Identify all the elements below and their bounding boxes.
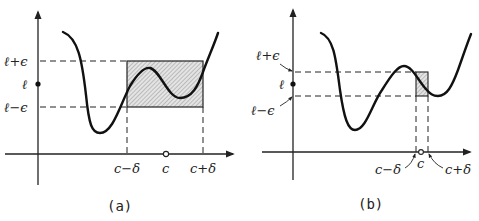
caption-a: (a) xyxy=(107,198,132,214)
label-c: c xyxy=(417,156,425,171)
label-c-minus-delta: c−δ xyxy=(114,161,140,176)
label-c-plus-delta: c+δ xyxy=(190,161,216,176)
pointer-arrow-upper xyxy=(280,64,292,71)
c-point-hollow xyxy=(419,150,424,155)
dashed-guides xyxy=(295,72,428,152)
c-point-hollow xyxy=(163,151,168,156)
limit-point xyxy=(290,81,295,86)
label-l-minus-eps: ℓ−ϵ xyxy=(251,103,275,118)
label-c-minus-delta: c−δ xyxy=(375,162,401,177)
pointer-arrow-c-plus-delta xyxy=(429,154,443,168)
label-c-plus-delta: c+δ xyxy=(445,162,471,177)
pointer-arrow-lower xyxy=(280,97,292,106)
epsilon-delta-figure: ℓ+ϵ ℓ ℓ−ϵ c−δ c c+δ (a) xyxy=(0,0,479,221)
label-c: c xyxy=(162,161,170,176)
caption-b: (b) xyxy=(358,196,383,212)
panel-a: ℓ+ϵ ℓ ℓ−ϵ c−δ c c+δ (a) xyxy=(4,12,233,214)
label-l-plus-eps: ℓ+ϵ xyxy=(256,48,280,63)
label-l-plus-eps: ℓ+ϵ xyxy=(4,54,28,69)
limit-point xyxy=(35,81,40,86)
function-curve xyxy=(321,33,471,130)
pointer-arrow-c-minus-delta xyxy=(405,154,415,168)
label-l-minus-eps: ℓ−ϵ xyxy=(4,100,28,115)
label-l: ℓ xyxy=(22,77,28,92)
label-l: ℓ xyxy=(279,77,285,92)
panel-b: ℓ+ϵ ℓ ℓ−ϵ c−δ c c+δ (b) xyxy=(251,10,471,212)
